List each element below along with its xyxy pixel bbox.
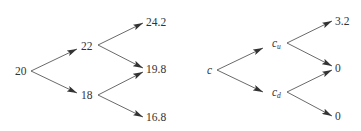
node-cd-subscript: d (277, 91, 281, 100)
node-c-ud: 0 (335, 62, 341, 74)
stock-price-tree: 20 22 18 24.2 19.8 16.8 (15, 16, 166, 123)
node-c-dd: 0 (335, 110, 341, 122)
edge-cu-to-ud (287, 43, 332, 66)
node-c: c (207, 64, 212, 76)
edge-c-to-cd (217, 70, 263, 92)
node-c-uu: 3.2 (335, 15, 350, 27)
edge-cd-to-dd (287, 92, 332, 116)
edge-cd-to-ud (287, 70, 332, 92)
node-down: 18 (81, 89, 93, 101)
edge-down-to-dd (98, 95, 143, 117)
binomial-trees-diagram: 20 22 18 24.2 19.8 16.8 c cu cd 3.2 0 0 (0, 0, 361, 131)
node-cu: cu (272, 37, 281, 51)
edge-up-to-uu (98, 23, 143, 45)
node-ud: 19.8 (146, 63, 166, 75)
node-cu-subscript: u (277, 42, 281, 51)
edge-root-to-down (31, 71, 77, 93)
node-cd: cd (272, 86, 281, 100)
node-root: 20 (15, 65, 27, 77)
edge-root-to-up (31, 49, 77, 71)
edge-down-to-ud (98, 72, 143, 95)
option-value-tree: c cu cd 3.2 0 0 (207, 15, 350, 122)
node-uu: 24.2 (146, 16, 166, 28)
node-up: 22 (81, 40, 93, 52)
edge-c-to-cu (217, 48, 263, 70)
node-dd: 16.8 (146, 111, 166, 123)
edge-up-to-ud (98, 45, 143, 68)
edge-cu-to-uu (287, 21, 332, 43)
